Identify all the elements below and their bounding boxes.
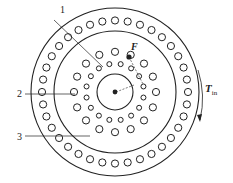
outer-hole: [124, 18, 131, 25]
large-hole: [70, 88, 77, 95]
large-hole: [74, 73, 81, 80]
label-2: 2: [17, 89, 22, 99]
outer-hole: [111, 17, 118, 24]
label-3: 3: [17, 132, 22, 142]
large-hole: [96, 51, 103, 58]
outer-hole: [40, 76, 47, 83]
outer-hole: [175, 53, 182, 60]
outer-hole: [38, 88, 45, 95]
label-1: 1: [60, 5, 65, 15]
small-hole: [118, 117, 123, 122]
outer-hole: [48, 124, 55, 131]
outer-hole: [180, 64, 187, 71]
large-hole: [149, 73, 156, 80]
small-hole: [88, 105, 93, 110]
small-hole: [107, 62, 112, 67]
outer-hole: [43, 64, 50, 71]
large-hole: [111, 129, 118, 136]
radius-line: [116, 85, 134, 92]
outer-hole: [184, 88, 191, 95]
large-hole: [149, 104, 156, 111]
small-hole: [88, 74, 93, 79]
outer-hole: [175, 124, 182, 131]
outer-hole: [64, 34, 71, 41]
outer-hole: [55, 42, 62, 49]
outer-hole: [75, 150, 82, 157]
outer-hole: [86, 156, 93, 163]
outer-hole: [167, 134, 174, 141]
force-label: F: [131, 41, 138, 52]
outer-hole: [180, 113, 187, 120]
small-hole: [141, 95, 146, 100]
outer-hole: [136, 21, 143, 28]
small-hole: [84, 95, 89, 100]
small-hole: [96, 66, 101, 71]
outer-hole: [99, 18, 106, 25]
small-hole: [118, 62, 123, 67]
bearing-diagram: [0, 0, 233, 183]
outer-hole: [86, 21, 93, 28]
outer-hole: [43, 113, 50, 120]
small-hole: [129, 113, 134, 118]
small-hole: [141, 84, 146, 89]
large-hole: [152, 88, 159, 95]
torque-label: Tin: [205, 82, 217, 97]
large-hole: [140, 117, 147, 124]
outer-hole: [148, 150, 155, 157]
outer-hole: [99, 159, 106, 166]
outer-hole: [183, 101, 190, 108]
large-hole: [96, 126, 103, 133]
large-hole: [82, 117, 89, 124]
outer-hole: [158, 34, 165, 41]
outer-hole: [124, 159, 131, 166]
large-hole: [82, 60, 89, 67]
outer-hole: [111, 160, 118, 167]
outer-hole: [64, 143, 71, 150]
small-hole: [84, 84, 89, 89]
large-hole: [74, 104, 81, 111]
outer-hole: [158, 143, 165, 150]
small-hole: [129, 66, 134, 71]
outer-hole: [183, 76, 190, 83]
small-hole: [107, 117, 112, 122]
outer-hole: [55, 134, 62, 141]
small-hole: [96, 113, 101, 118]
large-hole: [111, 48, 118, 55]
outer-hole: [148, 26, 155, 33]
outer-hole: [40, 101, 47, 108]
small-hole: [137, 105, 142, 110]
large-hole: [127, 126, 134, 133]
torque-arrowhead: [197, 114, 202, 122]
outer-hole: [136, 156, 143, 163]
large-hole: [140, 60, 147, 67]
outer-hole: [48, 53, 55, 60]
outer-hole: [167, 42, 174, 49]
outer-hole: [75, 26, 82, 33]
